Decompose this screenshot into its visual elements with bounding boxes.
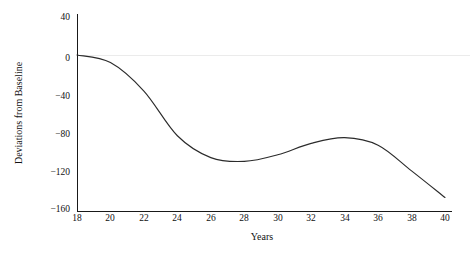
x-tick-label: 36 — [373, 213, 383, 223]
x-tick-label: 34 — [340, 213, 350, 223]
y-tick-label: 0 — [65, 53, 70, 63]
x-axis-title: Years — [251, 231, 273, 242]
x-tick-label: 32 — [306, 213, 316, 223]
x-tick-label: 40 — [440, 213, 450, 223]
y-tick-label: −80 — [55, 129, 70, 139]
y-tick-label: 40 — [61, 12, 71, 22]
x-tick-label: 28 — [239, 213, 249, 223]
y-tick-label-group: 40 0 −40 −80 −120 −160 — [50, 12, 70, 214]
x-tick-label: 22 — [139, 213, 149, 223]
series-line-deviation — [77, 55, 445, 198]
x-tick-label-group: 18 20 22 24 26 28 30 32 34 36 38 40 — [72, 213, 450, 223]
x-tick-label: 24 — [172, 213, 182, 223]
y-axis-title: Deviations from Baseline — [13, 61, 24, 164]
line-chart: 40 0 −40 −80 −120 −160 18 20 22 24 26 28… — [0, 0, 472, 254]
y-tick-label: −40 — [55, 91, 70, 101]
x-tick-label: 18 — [72, 213, 82, 223]
x-tick-label: 30 — [273, 213, 283, 223]
chart-container: 40 0 −40 −80 −120 −160 18 20 22 24 26 28… — [0, 0, 472, 254]
x-tick-label: 26 — [206, 213, 216, 223]
y-tick-label: −120 — [50, 167, 70, 177]
y-tick-label: −160 — [50, 204, 70, 214]
x-tick-label: 20 — [105, 213, 115, 223]
x-tick-label: 38 — [407, 213, 417, 223]
